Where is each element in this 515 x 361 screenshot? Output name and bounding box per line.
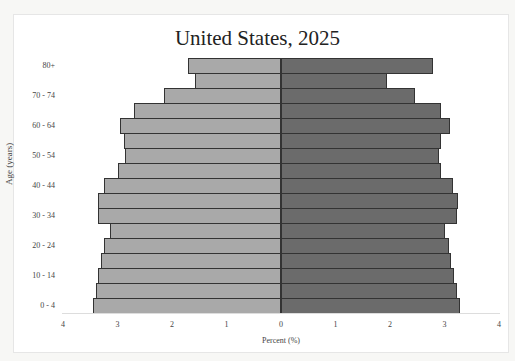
bar-left <box>101 253 281 269</box>
bar-left <box>120 118 281 134</box>
bar-right <box>281 178 453 194</box>
bar-left <box>195 73 281 89</box>
bar-left <box>110 223 281 239</box>
x-axis-title: Percent (%) <box>0 336 515 345</box>
bar-right <box>281 253 451 269</box>
x-axis-line <box>62 313 500 314</box>
y-tick-label: 0 - 4 <box>5 301 55 310</box>
bar-right <box>281 163 441 179</box>
bar-right <box>281 223 445 239</box>
bar-left <box>98 268 281 284</box>
bar-right <box>281 238 449 254</box>
bar-left <box>93 298 281 314</box>
bar-right <box>281 118 450 134</box>
y-tick-label: 60 - 64 <box>5 121 55 130</box>
y-axis-title: Age (years) <box>4 143 14 185</box>
y-tick-label: 10 - 14 <box>5 271 55 280</box>
bar-right <box>281 73 387 89</box>
bar-left <box>125 148 281 164</box>
bar-right <box>281 58 433 74</box>
bar-left <box>134 103 281 119</box>
bar-right <box>281 103 441 119</box>
bar-left <box>96 283 281 299</box>
x-tick-label: 1 <box>326 320 346 329</box>
bar-right <box>281 283 457 299</box>
y-tick-label: 20 - 24 <box>5 241 55 250</box>
bar-right <box>281 208 457 224</box>
bar-left <box>104 178 281 194</box>
bar-left <box>104 238 281 254</box>
bar-left <box>188 58 281 74</box>
x-tick-label: 0 <box>271 320 291 329</box>
bar-right <box>281 268 454 284</box>
y-tick-label: 70 - 74 <box>5 91 55 100</box>
y-tick-label: 30 - 34 <box>5 211 55 220</box>
bar-left <box>118 163 281 179</box>
x-tick-label: 3 <box>108 320 128 329</box>
bar-left <box>164 88 281 104</box>
x-tick-label: 1 <box>217 320 237 329</box>
x-tick-label: 2 <box>380 320 400 329</box>
bar-right <box>281 148 439 164</box>
bar-right <box>281 133 441 149</box>
bar-right <box>281 298 460 314</box>
x-tick-label: 2 <box>162 320 182 329</box>
y-tick-label: 80+ <box>5 61 55 70</box>
x-tick-label: 4 <box>489 320 509 329</box>
bar-left <box>98 193 281 209</box>
x-tick-label: 4 <box>53 320 73 329</box>
x-tick-label: 3 <box>435 320 455 329</box>
bar-left <box>124 133 281 149</box>
bar-left <box>98 208 281 224</box>
bar-right <box>281 88 415 104</box>
plot-area <box>0 0 515 361</box>
bar-right <box>281 193 458 209</box>
